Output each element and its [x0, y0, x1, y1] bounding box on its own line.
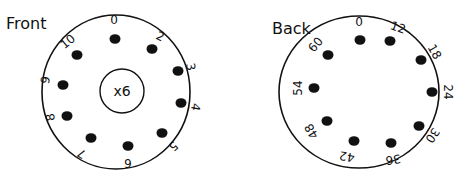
back-hole-dot: [309, 83, 320, 93]
front-position-label: 9: [38, 75, 53, 85]
back-hole-dot: [355, 35, 366, 45]
front-position-label: 10: [57, 31, 78, 52]
front-hole-dot: [62, 111, 73, 121]
front-position-label: 6: [124, 156, 132, 170]
dial-diagram: Front Back x6023456789100121824303642485…: [0, 0, 461, 174]
back-position-label: 0: [355, 15, 363, 29]
front-hole-dot: [110, 34, 121, 44]
front-hole-dot: [173, 66, 184, 76]
back-hole-dot: [323, 50, 334, 60]
front-hole-dot: [123, 141, 134, 151]
back-position-label: 48: [302, 121, 322, 141]
dials-graphic: x6023456789100121824303642485460: [0, 0, 461, 174]
front-center-label: x6: [113, 83, 130, 99]
back-hole-dot: [349, 136, 360, 146]
back-position-label: 54: [291, 80, 305, 95]
front-position-label: 3: [183, 62, 198, 72]
back-hole-dot: [414, 121, 425, 131]
back-position-label: 42: [338, 148, 355, 164]
back-hole-dot: [385, 36, 396, 46]
front-position-label: 4: [188, 102, 203, 112]
front-hole-dot: [72, 50, 83, 60]
front-position-label: 2: [154, 29, 167, 45]
back-position-label: 30: [422, 125, 442, 146]
back-position-label: 12: [389, 18, 408, 36]
back-hole-dot: [427, 87, 438, 97]
front-hole-dot: [147, 44, 158, 54]
back-position-label: 60: [305, 34, 326, 55]
front-hole-dot: [86, 133, 97, 143]
back-hole-dot: [322, 116, 333, 126]
back-position-label: 18: [425, 42, 445, 62]
front-position-label: 7: [75, 145, 89, 161]
front-hole-dot: [176, 98, 187, 108]
back-position-label: 24: [441, 84, 455, 99]
front-position-label: 0: [110, 13, 118, 27]
front-hole-dot: [157, 128, 168, 138]
back-position-label: 36: [384, 151, 401, 167]
back-hole-dot: [386, 138, 397, 148]
back-hole-dot: [416, 55, 427, 65]
front-hole-dot: [58, 80, 69, 90]
